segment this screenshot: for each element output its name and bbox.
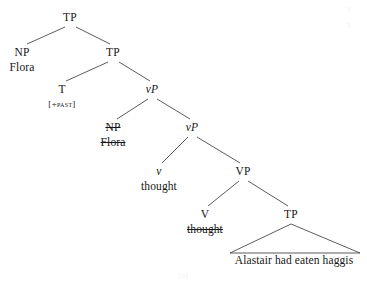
node-category-label: T <box>48 84 75 96</box>
tree-branch-vp-little-up-to-vp-little-lo <box>157 99 190 119</box>
node-category-label: v <box>141 166 177 178</box>
node-terminal-word: Flora <box>10 62 35 74</box>
node-category-label: vP <box>146 84 159 96</box>
node-category-label: TP <box>63 12 77 24</box>
tree-node-v-little: vthought <box>141 166 177 192</box>
tree-branch-vp-little-lo-to-v-little <box>162 137 188 163</box>
embedded-clause-triangle <box>230 224 360 253</box>
tree-node-tp-embedded: TP <box>284 209 298 221</box>
tree-branch-tp-root-to-tp-bar <box>76 27 110 44</box>
tree-branch-vp-big-to-tp-embedded <box>248 181 288 206</box>
triangle-group <box>230 224 360 253</box>
tree-branch-vp-little-lo-to-vp-big <box>197 137 240 163</box>
tree-branch-vp-big-to-v-big <box>208 181 239 206</box>
tree-node-t-head: T[+past] <box>48 84 75 109</box>
node-category-label: VP <box>235 166 250 178</box>
footer-page-number: 181 <box>177 272 189 281</box>
tree-branch-tp-root-to-np-subject <box>27 27 65 44</box>
corner-mark-1: y <box>347 4 352 13</box>
node-category-label: V <box>187 209 223 221</box>
node-terminal-word-struck: Flora <box>101 137 126 149</box>
node-feature-bundle: [+past] <box>48 100 75 109</box>
tree-branches-svg <box>0 0 367 283</box>
tree-node-tp-root: TP <box>63 12 77 24</box>
node-category-label: TP <box>106 47 120 59</box>
tree-node-tp-bar: TP <box>106 47 120 59</box>
corner-mark-2: z <box>347 20 351 29</box>
tree-node-np-trace: NPFlora <box>101 122 126 148</box>
tree-node-vp-little-lo: vP <box>186 122 199 134</box>
tree-node-np-subject: NPFlora <box>10 47 35 73</box>
node-category-label: NP <box>10 47 35 59</box>
node-category-label: TP <box>284 209 298 221</box>
tree-node-vp-big: VP <box>235 166 250 178</box>
syntax-tree-figure: TPNPFloraTPT[+past]vPNPFloravPvthoughtVP… <box>0 0 367 283</box>
node-category-label: vP <box>186 122 199 134</box>
tree-node-v-big: Vthought <box>187 209 223 235</box>
node-category-label: NP <box>101 122 126 134</box>
triangle-phrase-text: Alastair had eaten haggis <box>235 254 353 266</box>
node-terminal-word-struck: thought <box>187 224 223 236</box>
tree-node-vp-little-up: vP <box>146 84 159 96</box>
tree-branch-vp-little-up-to-np-trace <box>117 99 148 119</box>
tree-branch-tp-bar-to-t-head <box>66 62 108 81</box>
node-terminal-word: thought <box>141 181 177 193</box>
tree-branch-tp-bar-to-vp-little-up <box>119 62 150 81</box>
